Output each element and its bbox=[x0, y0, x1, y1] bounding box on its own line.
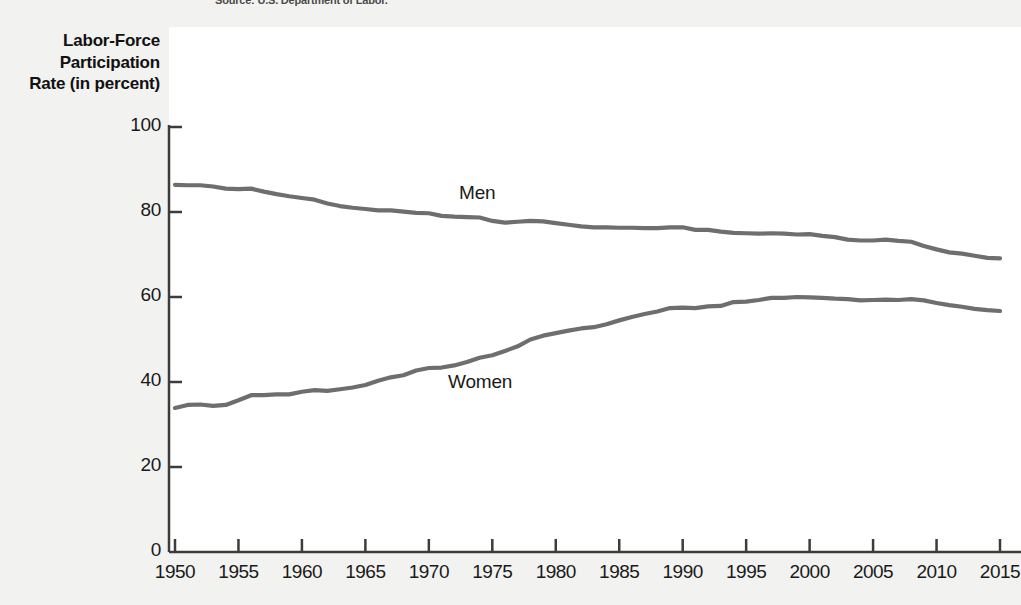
x-tick-label-1960: 1960 bbox=[272, 561, 332, 583]
y-axis-title-line-2: Participation bbox=[8, 52, 160, 74]
x-tick-label-1985: 1985 bbox=[589, 561, 649, 583]
source-value: U.S. Department of Labor. bbox=[257, 0, 387, 6]
y-tick-label-80: 80 bbox=[105, 199, 161, 221]
x-tick-label-1970: 1970 bbox=[399, 561, 459, 583]
x-tick-label-2010: 2010 bbox=[907, 561, 967, 583]
x-tick-label-2015: 2015 bbox=[970, 561, 1021, 583]
y-tick-label-100: 100 bbox=[105, 114, 161, 136]
plot-panel bbox=[169, 27, 1021, 552]
x-tick-label-1950: 1950 bbox=[145, 561, 205, 583]
x-tick-label-2005: 2005 bbox=[843, 561, 903, 583]
x-tick-label-1955: 1955 bbox=[208, 561, 268, 583]
source-label: Source: bbox=[215, 0, 255, 6]
y-axis-title-line-3: Rate (in percent) bbox=[8, 73, 160, 95]
figure-container: Source: U.S. Department of Labor. Labor-… bbox=[0, 0, 1021, 605]
x-tick-label-2000: 2000 bbox=[780, 561, 840, 583]
y-axis-title-line-1: Labor-Force bbox=[8, 30, 160, 52]
y-tick-label-20: 20 bbox=[105, 454, 161, 476]
x-tick-label-1990: 1990 bbox=[653, 561, 713, 583]
y-tick-label-0: 0 bbox=[105, 539, 161, 561]
y-axis-title: Labor-Force Participation Rate (in perce… bbox=[8, 30, 160, 95]
x-tick-label-1975: 1975 bbox=[462, 561, 522, 583]
x-tick-label-1965: 1965 bbox=[335, 561, 395, 583]
source-note: Source: U.S. Department of Labor. bbox=[215, 0, 388, 6]
series-annotation-men: Men bbox=[459, 182, 495, 204]
x-tick-label-1980: 1980 bbox=[526, 561, 586, 583]
y-tick-label-60: 60 bbox=[105, 284, 161, 306]
y-tick-label-40: 40 bbox=[105, 369, 161, 391]
series-annotation-women: Women bbox=[448, 371, 512, 393]
x-tick-label-1995: 1995 bbox=[716, 561, 776, 583]
